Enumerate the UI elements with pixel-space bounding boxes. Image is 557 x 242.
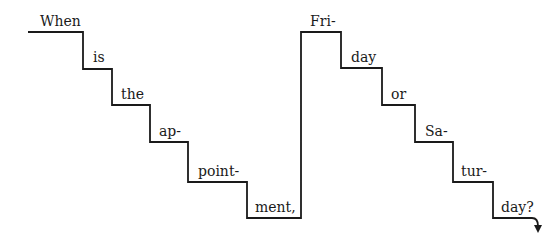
syllable-sa: Sa- xyxy=(425,123,448,139)
syllable-the: the xyxy=(121,86,144,102)
syllable-day-question: day? xyxy=(501,199,534,215)
syllable-fri: Fri- xyxy=(310,13,336,29)
syllable-ap: ap- xyxy=(159,123,181,139)
syllable-is: is xyxy=(93,49,105,65)
syllable-ment: ment, xyxy=(255,199,296,215)
arrow-down-icon xyxy=(534,225,542,233)
syllable-point: point- xyxy=(198,163,240,179)
intonation-staircase-diagram: When is the ap- point- ment, Fri- day or… xyxy=(0,0,557,242)
syllable-when: When xyxy=(40,13,81,29)
syllable-day: day xyxy=(351,49,376,65)
syllable-or: or xyxy=(391,86,406,102)
final-fall-curve xyxy=(532,218,538,226)
syllable-tur: tur- xyxy=(461,163,487,179)
